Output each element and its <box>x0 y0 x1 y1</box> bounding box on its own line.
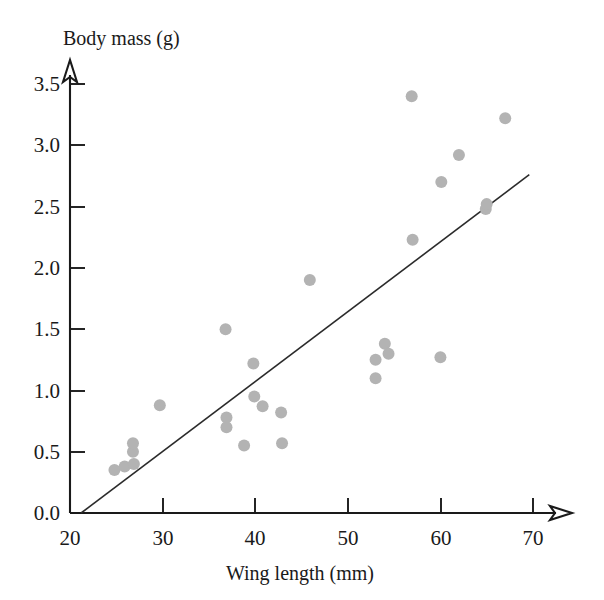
data-point <box>499 112 511 124</box>
x-tick-labels: 20 30 40 50 60 70 <box>60 526 544 550</box>
data-points-group <box>108 90 511 476</box>
data-point <box>128 458 140 470</box>
data-point <box>434 351 446 363</box>
y-tick-label-7: 3.5 <box>34 72 60 96</box>
x-tick-label-1: 30 <box>153 526 174 550</box>
x-tick-label-4: 60 <box>431 526 452 550</box>
data-point <box>238 440 250 452</box>
y-tick-label-6: 3.0 <box>34 133 60 157</box>
data-point <box>108 464 120 476</box>
data-point <box>304 274 316 286</box>
y-tick-label-2: 1.0 <box>34 379 60 403</box>
x-tick-marks <box>70 498 533 513</box>
data-point <box>220 323 232 335</box>
x-tick-label-3: 50 <box>338 526 359 550</box>
y-tick-label-0: 0.0 <box>34 501 60 525</box>
y-tick-labels: 0.0 0.5 1.0 1.5 2.0 2.5 3.0 3.5 <box>34 72 60 525</box>
y-axis-title: Body mass (g) <box>63 27 180 50</box>
data-point <box>248 391 260 403</box>
y-tick-label-4: 2.0 <box>34 256 60 280</box>
data-point <box>247 357 259 369</box>
scatter-plot-figure: 0.0 0.5 1.0 1.5 2.0 2.5 3.0 3.5 20 30 40… <box>0 0 604 600</box>
data-point <box>276 437 288 449</box>
data-point <box>127 437 139 449</box>
regression-line <box>81 175 529 513</box>
x-tick-label-2: 40 <box>245 526 266 550</box>
data-point <box>481 198 493 210</box>
x-tick-label-5: 70 <box>523 526 544 550</box>
data-point <box>406 90 418 102</box>
plot-canvas: 0.0 0.5 1.0 1.5 2.0 2.5 3.0 3.5 20 30 40… <box>0 0 604 600</box>
y-tick-label-5: 2.5 <box>34 195 60 219</box>
data-point <box>275 406 287 418</box>
y-tick-marks <box>70 84 85 513</box>
data-point <box>453 149 465 161</box>
y-tick-label-1: 0.5 <box>34 440 60 464</box>
data-point <box>407 234 419 246</box>
data-point <box>370 372 382 384</box>
x-tick-label-0: 20 <box>60 526 81 550</box>
data-point <box>370 354 382 366</box>
data-point <box>435 176 447 188</box>
data-point <box>154 399 166 411</box>
data-point <box>257 400 269 412</box>
x-axis-title: Wing length (mm) <box>226 562 374 585</box>
y-tick-label-3: 1.5 <box>34 317 60 341</box>
axes-group <box>63 60 572 520</box>
data-point <box>220 421 232 433</box>
data-point <box>383 348 395 360</box>
